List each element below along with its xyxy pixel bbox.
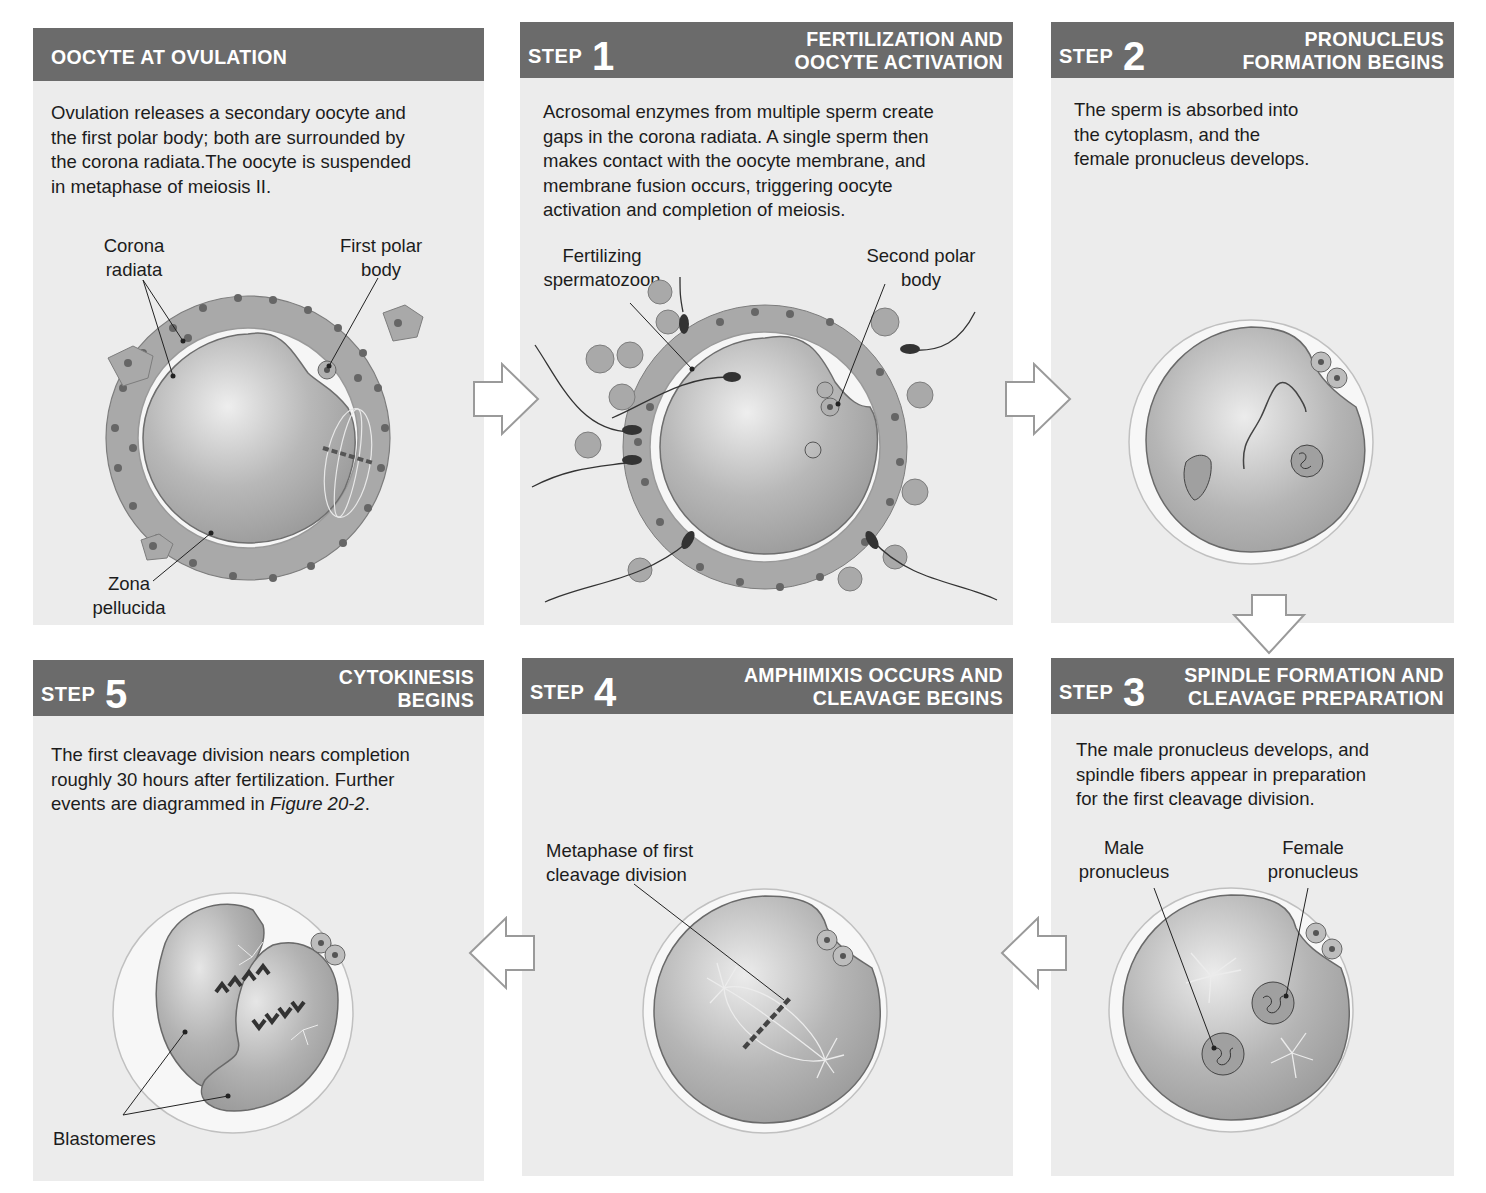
- arrow-left-icon: [466, 916, 536, 991]
- arrow-right-icon: [472, 362, 542, 437]
- female-pronucleus: [1291, 445, 1323, 477]
- panel-step-4: STEP 4 AMPHIMIXIS OCCURS AND CLEAVAGE BE…: [522, 658, 1013, 1176]
- panel-step-2: STEP 2 PRONUCLEUS FORMATION BEGINS The s…: [1051, 22, 1454, 623]
- arrow-down-icon: [1232, 593, 1307, 655]
- panel-oocyte-at-ovulation: OOCYTE AT OVULATION Ovulation releases a…: [33, 28, 484, 625]
- male-pronucleus: [1202, 1033, 1244, 1075]
- spindle-formation-illustration: [1051, 658, 1454, 1176]
- panel-step-1: STEP 1 FERTILIZATION AND OOCYTE ACTIVATI…: [520, 22, 1013, 625]
- panel-step-5: STEP 5 CYTOKINESIS BEGINS The first clea…: [33, 660, 484, 1181]
- first-polar-body: [817, 382, 833, 398]
- fertilization-illustration: [520, 22, 1013, 625]
- arrow-left-icon: [998, 916, 1068, 991]
- cytokinesis-illustration: [33, 660, 484, 1181]
- amphimixis-illustration: [522, 658, 1013, 1176]
- oocyte-ovulation-illustration: [33, 28, 484, 625]
- panel-step-3: STEP 3 SPINDLE FORMATION AND CLEAVAGE PR…: [1051, 658, 1454, 1176]
- pronucleus-formation-illustration: [1051, 22, 1454, 623]
- arrow-right-icon: [1004, 362, 1074, 437]
